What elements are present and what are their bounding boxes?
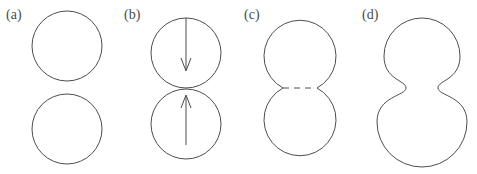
panel-a: (a) [0, 0, 118, 174]
panel-b-drawing [118, 0, 238, 174]
panel-a-drawing [0, 0, 118, 174]
panel-d-drawing [356, 0, 477, 174]
arrow-up-icon [181, 95, 191, 145]
droplet-upper-outline [264, 20, 336, 88]
arrow-down-icon [181, 18, 191, 71]
panel-b: (b) [118, 0, 238, 174]
coalesced-dumbbell-outline [377, 18, 467, 167]
panel-c-drawing [238, 0, 356, 174]
panel-c: (c) [238, 0, 356, 174]
panel-d: (d) [356, 0, 477, 174]
figure-root: (a) (b) (c) (d) [0, 0, 477, 174]
droplet-lower-outline [32, 94, 102, 164]
droplet-upper-outline [32, 11, 102, 81]
droplet-lower-outline [264, 88, 336, 156]
